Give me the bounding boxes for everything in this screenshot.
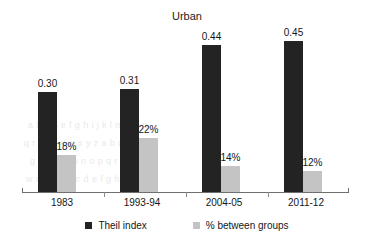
x-axis-label-1983: 1983 [37,197,87,208]
legend-label: % between groups [206,220,289,231]
bar-value-label: 0.30 [28,78,67,89]
bar-value-label: 22% [130,124,167,135]
bar-value-label: 0.44 [192,31,231,42]
bar-theil-index-2004-05 [202,45,221,192]
bar-value-label: 18% [48,141,85,152]
legend-item-between-groups: % between groups [193,220,289,231]
x-axis-label-2004-05: 2004-05 [196,197,252,208]
x-axis-right-cap [348,188,349,193]
bar-theil-index-2011-12 [284,41,303,192]
x-axis-tick [104,192,105,197]
bar-chart: a b c d e f g h i j k l m n o p q r s t … [0,0,374,240]
x-axis-label-1993-94: 1993-94 [114,197,170,208]
legend-swatch-icon [193,222,200,229]
bar-value-label: 0.31 [110,75,149,86]
x-axis-tick [186,192,187,197]
x-axis-left-cap [22,188,23,193]
bar-between-groups-2004-05 [221,166,240,192]
bar-between-groups-2011-12 [303,171,322,192]
x-axis-line [22,192,348,193]
legend-label: Theil index [98,220,146,231]
bar-value-label: 12% [294,157,331,168]
legend-item-theil-index: Theil index [85,220,146,231]
bar-between-groups-1983 [57,155,76,192]
bar-value-label: 0.45 [274,27,313,38]
bar-value-label: 14% [212,152,249,163]
legend-swatch-icon [85,222,92,229]
bar-between-groups-1993-94 [139,138,158,192]
x-axis-label-2011-12: 2011-12 [278,197,334,208]
bar-theil-index-1993-94 [120,89,139,192]
x-axis-tick [268,192,269,197]
chart-legend: Theil index % between groups [0,220,374,231]
plot-area: 0.30 18% 0.31 22% 0.44 14% 0.45 12% [0,0,374,192]
